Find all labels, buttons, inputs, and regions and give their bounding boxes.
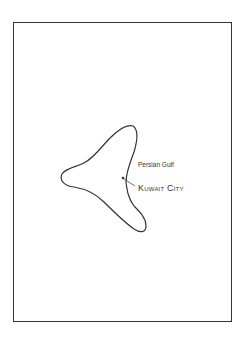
city-marker-dot [122, 177, 125, 180]
kuwait-city-label: Kuwait City [138, 183, 184, 193]
map-canvas [0, 0, 238, 344]
kuwait-bay-outline [61, 126, 146, 232]
persian-gulf-label: Persian Gulf [138, 161, 174, 168]
